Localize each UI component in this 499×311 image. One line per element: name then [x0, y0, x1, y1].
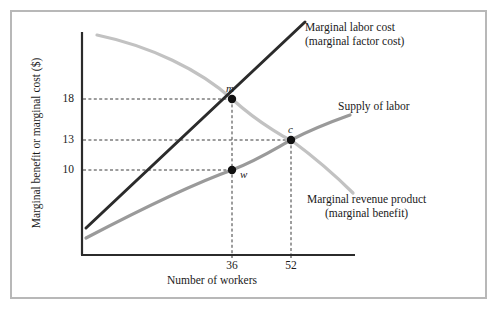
x-tick-label-36: 36 — [215, 259, 249, 271]
figure-container: 18 13 10 36 52 Marginal benefit or margi… — [0, 0, 499, 311]
curve-marginal-labor-cost — [86, 22, 305, 228]
chart-plot-area — [0, 0, 499, 311]
label-marginal-revenue-product-line2: (marginal benefit) — [307, 206, 426, 220]
x-axis-title: Number of workers — [112, 274, 312, 286]
y-tick-label-10: 10 — [44, 163, 74, 175]
point-label-c: c — [288, 123, 293, 135]
y-tick-label-18: 18 — [44, 92, 74, 104]
data-point-c — [287, 136, 295, 144]
point-label-m: m — [226, 82, 234, 94]
data-point-w — [228, 166, 236, 174]
curve-marginal-revenue-product — [97, 35, 353, 193]
label-marginal-labor-cost: Marginal labor cost (marginal factor cos… — [305, 20, 404, 48]
point-label-w: w — [240, 168, 247, 180]
label-marginal-revenue-product: Marginal revenue product (marginal benef… — [307, 192, 426, 220]
label-marginal-revenue-product-line1: Marginal revenue product — [307, 192, 426, 206]
x-tick-label-52: 52 — [274, 259, 308, 271]
label-supply-of-labor: Supply of labor — [338, 99, 410, 113]
label-marginal-labor-cost-line1: Marginal labor cost — [305, 20, 404, 34]
data-point-m — [228, 95, 236, 103]
y-axis-title: Marginal benefit or marginal cost ($) — [30, 43, 42, 243]
y-tick-label-13: 13 — [44, 133, 74, 145]
label-marginal-labor-cost-line2: (marginal factor cost) — [305, 34, 404, 48]
